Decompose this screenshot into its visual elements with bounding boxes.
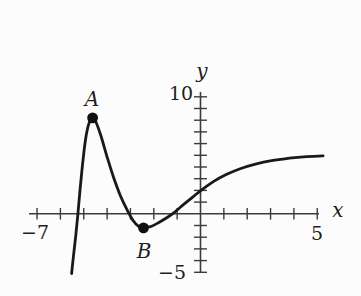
x-axis-label: x <box>332 200 343 220</box>
y-max-tick-label: 10 <box>169 84 193 103</box>
x-max-tick-label: 5 <box>311 224 323 243</box>
x-min-tick-label: −7 <box>21 223 49 242</box>
point-b-label: B <box>137 241 152 261</box>
plot-canvas <box>0 0 361 296</box>
function-curve <box>72 118 324 274</box>
function-graph-figure: A B x y 10 −5 −7 5 <box>0 0 361 296</box>
y-axis-label: y <box>196 61 207 81</box>
point-a-label: A <box>85 89 99 109</box>
point-a-dot <box>87 112 98 123</box>
y-min-tick-label: −5 <box>158 263 186 282</box>
point-b-dot <box>138 222 149 233</box>
